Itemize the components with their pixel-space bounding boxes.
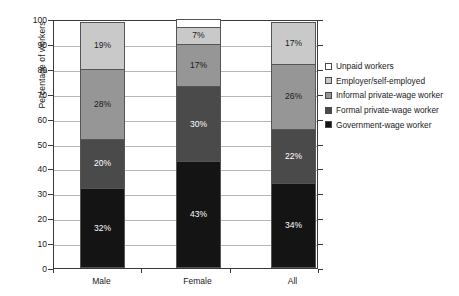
y-tick-mark-right [318, 120, 323, 121]
bar-segment-value: 19% [94, 41, 111, 50]
y-tick-label: 20 [21, 215, 47, 223]
bar-segment[interactable]: 17% [176, 44, 221, 86]
legend-label: Employer/self-employed [336, 76, 425, 86]
bar-segment[interactable] [176, 19, 221, 26]
stacked-bar-all[interactable]: 17%26%22%34% [271, 22, 316, 268]
bar-segment[interactable]: 22% [271, 129, 316, 184]
y-tick-label: 0 [21, 265, 47, 273]
legend-item[interactable]: Unpaid workers [325, 61, 457, 71]
bar-segment-value: 20% [94, 159, 111, 168]
y-tick-mark-right [318, 169, 323, 170]
bar-segment[interactable]: 20% [80, 139, 125, 189]
y-tick-label: 40 [21, 165, 47, 173]
x-tick-mark [230, 269, 231, 273]
x-tick-mark [141, 269, 142, 273]
bar-segment-value: 30% [190, 120, 207, 129]
x-tick-label: All [248, 276, 338, 286]
bar-segment-value: 22% [285, 152, 302, 161]
legend-item[interactable]: Formal private-wage worker [325, 105, 457, 115]
y-tick-mark-right [318, 219, 323, 220]
plot-area: 19%28%20%32%7%17%30%43%17%26%22%34% [53, 20, 318, 269]
bar-segment-value: 28% [94, 100, 111, 109]
y-tick-label: 80 [21, 66, 47, 74]
bar-segment[interactable]: 26% [271, 64, 316, 129]
bar-segment[interactable]: 28% [80, 69, 125, 139]
x-tick-label: Male [57, 276, 147, 286]
y-tick-mark-right [318, 70, 323, 71]
x-tick-label: Female [153, 276, 243, 286]
x-tick-mark [53, 269, 54, 273]
y-tick-label: 50 [21, 141, 47, 149]
legend-item[interactable]: Government-wage worker [325, 120, 457, 130]
bar-segment[interactable]: 43% [176, 161, 221, 268]
bar-segment[interactable]: 30% [176, 86, 221, 161]
y-tick-label: 10 [21, 240, 47, 248]
bar-segment[interactable]: 7% [176, 27, 221, 44]
legend-swatch [325, 63, 332, 70]
y-tick-mark-right [318, 194, 323, 195]
legend-item[interactable]: Informal private-wage worker [325, 90, 457, 100]
y-tick-label: 60 [21, 116, 47, 124]
legend-label: Government-wage worker [336, 120, 431, 130]
legend-swatch [325, 121, 332, 128]
bar-segment-value: 43% [190, 210, 207, 219]
stacked-bar-female[interactable]: 7%17%30%43% [176, 19, 221, 268]
legend-label: Unpaid workers [336, 61, 394, 71]
bar-segment[interactable]: 34% [271, 183, 316, 268]
legend-item[interactable]: Employer/self-employed [325, 76, 457, 86]
stacked-bar-chart: Percentage of workers 010203040506070809… [0, 0, 459, 296]
x-tick-mark [318, 269, 319, 273]
bar-segment-value: 17% [190, 61, 207, 70]
bar-segment-value: 32% [94, 224, 111, 233]
bar-segment-value: 26% [285, 92, 302, 101]
legend-swatch [325, 107, 332, 114]
y-tick-mark-right [318, 244, 323, 245]
y-tick-label: 90 [21, 41, 47, 49]
y-tick-mark-right [318, 145, 323, 146]
y-tick-label: 70 [21, 91, 47, 99]
bar-segment[interactable]: 17% [271, 22, 316, 64]
y-tick-mark-right [318, 95, 323, 96]
y-tick-mark-right [318, 45, 323, 46]
bar-segment-value: 7% [192, 31, 204, 40]
legend-label: Informal private-wage worker [336, 90, 443, 100]
chart-legend: Unpaid workersEmployer/self-employedInfo… [325, 61, 457, 135]
bar-segment-value: 17% [285, 39, 302, 48]
y-tick-label: 30 [21, 190, 47, 198]
stacked-bar-male[interactable]: 19%28%20%32% [80, 22, 125, 268]
y-tick-mark-right [318, 20, 323, 21]
bar-segment-value: 34% [285, 221, 302, 230]
legend-swatch [325, 77, 332, 84]
legend-swatch [325, 92, 332, 99]
bar-segment[interactable]: 32% [80, 188, 125, 268]
legend-label: Formal private-wage worker [336, 105, 439, 115]
y-tick-label: 100 [21, 16, 47, 24]
bar-segment[interactable]: 19% [80, 22, 125, 69]
